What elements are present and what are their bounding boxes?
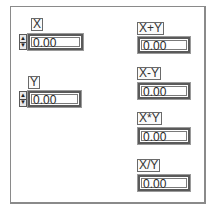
decrement-icon[interactable]: ▼ (20, 42, 26, 49)
x-value[interactable]: 0.00 (31, 37, 80, 47)
quotient-value: 0.00 (141, 178, 187, 188)
difference-indicator: 0.00 (138, 83, 190, 99)
product-value: 0.00 (141, 131, 187, 141)
difference-label: X-Y (137, 67, 161, 80)
sum-label: X+Y (137, 22, 164, 35)
y-spinner[interactable]: ▲ ▼ (19, 91, 27, 107)
quotient-indicator: 0.00 (138, 175, 190, 191)
product-label: X*Y (137, 112, 162, 125)
decrement-icon[interactable]: ▼ (20, 99, 26, 106)
sum-indicator: 0.00 (138, 37, 190, 53)
x-input[interactable]: 0.00 (28, 34, 83, 50)
quotient-label: X/Y (137, 159, 160, 172)
difference-value: 0.00 (141, 86, 187, 96)
y-value[interactable]: 0.00 (31, 94, 78, 104)
x-spinner[interactable]: ▲ ▼ (19, 34, 27, 50)
product-indicator: 0.00 (138, 128, 190, 144)
y-input[interactable]: 0.00 (28, 91, 81, 107)
y-label: Y (28, 76, 40, 89)
x-label: X (31, 18, 43, 31)
sum-value: 0.00 (141, 40, 187, 50)
